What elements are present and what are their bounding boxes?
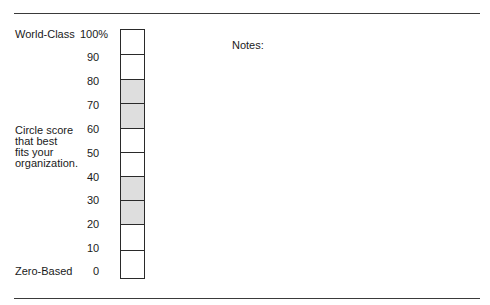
- tick-90: 90: [87, 52, 117, 63]
- tick-80: 80: [87, 76, 117, 87]
- tick-30: 30: [87, 195, 117, 206]
- tick-100: 100%: [80, 29, 110, 40]
- world-class-label: World-Class: [15, 29, 75, 40]
- scale-cell-50-60[interactable]: [121, 128, 144, 153]
- instruction-line: organization.: [15, 158, 95, 169]
- tick-60: 60: [87, 124, 117, 135]
- tick-40: 40: [87, 172, 117, 183]
- top-rule: [14, 13, 480, 14]
- tick-50: 50: [87, 148, 117, 159]
- scale-cell-10-20[interactable]: [121, 224, 144, 249]
- tick-0: 0: [93, 266, 123, 277]
- tick-20: 20: [87, 219, 117, 230]
- bottom-rule: [14, 298, 480, 299]
- tick-10: 10: [87, 243, 117, 254]
- scale-cell-80-90[interactable]: [121, 54, 144, 79]
- instruction-text: Circle score that best fits your organiz…: [15, 125, 95, 169]
- scale-cell-40-50[interactable]: [121, 152, 144, 177]
- notes-label: Notes:: [232, 40, 264, 51]
- zero-based-label: Zero-Based: [15, 266, 72, 277]
- scale-cell-70-80[interactable]: [121, 79, 144, 104]
- tick-70: 70: [87, 100, 117, 111]
- score-scale-box[interactable]: [120, 29, 145, 279]
- scale-cell-20-30[interactable]: [121, 200, 144, 225]
- scale-cell-60-70[interactable]: [121, 103, 144, 128]
- scale-cell-30-40[interactable]: [121, 176, 144, 201]
- scale-cell-0-10[interactable]: [121, 250, 144, 277]
- scale-cell-90-100[interactable]: [121, 30, 144, 55]
